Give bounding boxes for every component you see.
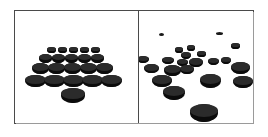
disc-top-face <box>91 54 104 60</box>
disc-top-face <box>164 65 181 73</box>
disc-top-face <box>65 54 78 60</box>
disc <box>80 47 89 53</box>
ordered-arrangement-panel <box>15 11 138 123</box>
disc-top-face <box>91 47 100 51</box>
disc <box>25 75 46 88</box>
disc-top-face <box>175 47 183 51</box>
disc-top-face <box>52 54 65 60</box>
disc <box>101 75 122 88</box>
disc-top-face <box>80 47 89 51</box>
disc <box>221 57 231 64</box>
disc <box>58 47 67 53</box>
disc-top-face <box>58 47 67 51</box>
disc <box>233 76 253 89</box>
disc-top-face <box>48 63 65 71</box>
disc-top-face <box>47 47 56 51</box>
disc <box>163 86 185 100</box>
disc-top-face <box>64 63 81 71</box>
disc-top-face <box>190 104 218 117</box>
disc <box>47 47 56 53</box>
disc-top-face <box>177 59 188 64</box>
disc-top-face <box>187 45 195 49</box>
disc <box>44 75 65 88</box>
disc-top-face <box>63 75 84 84</box>
disc-top-face <box>44 75 65 84</box>
two-panel-frame <box>14 10 254 124</box>
disc <box>64 63 81 74</box>
disc <box>216 32 223 35</box>
disc <box>80 63 97 74</box>
disc <box>32 63 49 74</box>
disc <box>91 47 100 53</box>
disc-top-face <box>32 63 49 71</box>
disc <box>91 54 104 63</box>
random-arrangement-panel <box>138 11 253 123</box>
disc <box>159 33 164 36</box>
disc-top-face <box>69 47 78 51</box>
disc-top-face <box>78 54 91 60</box>
disc-top-face <box>82 75 103 84</box>
disc <box>96 63 113 74</box>
disc-top-face <box>208 58 219 63</box>
disc-top-face <box>231 62 250 71</box>
disc <box>48 63 65 74</box>
disc <box>180 65 194 75</box>
disc-top-face <box>231 43 240 47</box>
disc-top-face <box>180 65 194 72</box>
disc-top-face <box>144 64 159 71</box>
disc-top-face <box>25 75 46 84</box>
disc <box>187 45 195 51</box>
disc-top-face <box>80 63 97 71</box>
disc-top-face <box>181 52 191 57</box>
disc <box>181 52 191 59</box>
disc-top-face <box>101 75 122 84</box>
disc-top-face <box>152 75 172 84</box>
disc <box>65 54 78 63</box>
disc-top-face <box>61 88 85 99</box>
disc <box>69 47 78 53</box>
disc-top-face <box>163 86 185 96</box>
disc <box>138 56 149 63</box>
disc-top-face <box>162 57 174 62</box>
disc-top-face <box>39 54 52 60</box>
disc <box>231 62 250 75</box>
disc <box>39 54 52 63</box>
disc <box>200 74 221 88</box>
disc <box>52 54 65 63</box>
disc-top-face <box>233 76 253 85</box>
disc <box>61 88 85 104</box>
disc <box>78 54 91 63</box>
disc-top-face <box>96 63 113 71</box>
disc-top-face <box>189 58 203 65</box>
disc <box>162 57 174 64</box>
disc <box>231 43 240 49</box>
disc <box>190 104 218 122</box>
disc <box>144 64 159 74</box>
disc-top-face <box>200 74 221 84</box>
disc <box>63 75 84 88</box>
disc <box>208 58 219 65</box>
disc-top-face <box>197 51 206 55</box>
disc-top-face <box>138 56 149 61</box>
figure-root <box>0 0 268 137</box>
disc <box>197 51 206 57</box>
disc <box>82 75 103 88</box>
disc-top-face <box>221 57 231 62</box>
